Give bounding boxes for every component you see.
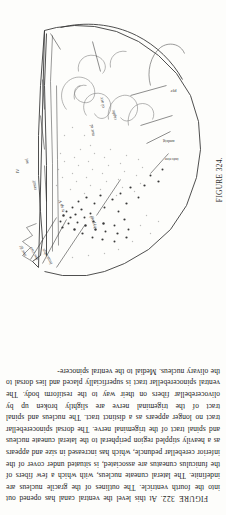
svg-text:pyr: pyr: [169, 88, 176, 93]
figure-rotated-canvas: nuc gr nuc cun funiculus restif sol tr s…: [0, 0, 226, 285]
figure-plate-label: FIGURE 324.: [215, 157, 224, 202]
svg-text:hypogl: hypogl: [88, 214, 97, 228]
caption-inner: FIGURE 322. At this level the ventral ca…: [6, 290, 220, 512]
accessory-olive: [78, 51, 126, 73]
pyramid-outline: [148, 44, 184, 85]
svg-text:ol acc: ol acc: [98, 96, 105, 108]
figure-caption-region: FIGURE 322. At this level the ventral ca…: [0, 288, 226, 515]
caption-rotation-wrapper: FIGURE 322. At this level the ventral ca…: [6, 290, 220, 512]
figure-illustration: nuc gr nuc cun funiculus restif sol tr s…: [0, 0, 226, 285]
svg-text:restif: restif: [31, 179, 37, 190]
svg-text:nuc ol: nuc ol: [88, 123, 95, 136]
svg-text:raphe: raphe: [110, 109, 117, 120]
svg-text:nuc cun: nuc cun: [27, 245, 39, 261]
inferior-olivary-nucleus: [61, 77, 153, 125]
svg-text:inferior: inferior: [164, 156, 178, 161]
caption-paragraph: FIGURE 322. At this level the ventral ca…: [6, 365, 220, 504]
scanned-book-page: nuc gr nuc cun funiculus restif sol tr s…: [0, 0, 226, 515]
svg-text:ambig: ambig: [162, 138, 174, 143]
medulla-section-drawing: nuc gr nuc cun funiculus restif sol tr s…: [0, 0, 226, 285]
svg-text:nuc gr: nuc gr: [17, 244, 27, 257]
restiform-body-stipple: [59, 168, 163, 242]
caption-body: At this level the ventral canal has open…: [6, 367, 220, 504]
caption-figure-number: FIGURE 322.: [160, 494, 208, 503]
svg-text:IV: IV: [14, 167, 19, 173]
svg-text:sol: sol: [23, 157, 29, 164]
grey-matter-stipple: [55, 124, 158, 257]
